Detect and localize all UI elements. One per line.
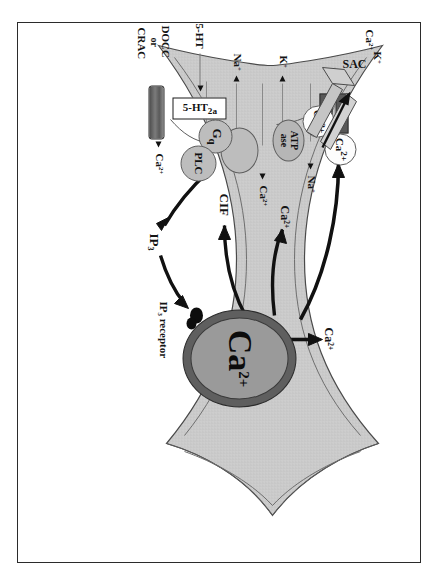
ip3-receptor-label: IP3 receptor: [156, 301, 168, 358]
rotation-wrapper: Ca2+ SAC ATP ase Ca2+: [18, 23, 422, 564]
docc-flux-arrowhead: [155, 141, 161, 147]
diagram-canvas: Ca2+ SAC ATP ase Ca2+: [18, 23, 422, 564]
ip3-label: IP3: [145, 233, 160, 250]
five-ht-label: 5-HT: [193, 23, 204, 48]
ca-pump-label: Ca2+: [257, 185, 268, 206]
k-left-label: K+: [277, 55, 288, 67]
five-ht-leader: [199, 53, 200, 85]
figure-root: Ca2+ SAC ATP ase Ca2+: [0, 0, 439, 586]
ca-cytosol-right-label: Ca2+: [322, 327, 334, 350]
docc-crac-channel[interactable]: [148, 85, 164, 139]
five-ht-arrowhead: [197, 85, 203, 91]
ca-efflux-label: Ca2+: [363, 29, 374, 50]
gq-label: Gq: [207, 128, 223, 144]
figure-frame: Ca2+ SAC ATP ase Ca2+: [17, 22, 421, 563]
ca-cytosol-mid-label: Ca2+: [278, 205, 290, 228]
atpase-label-line2: ase: [278, 133, 288, 146]
na-exch-arrowhead: [233, 75, 239, 81]
k-left-arrowhead: [279, 75, 285, 81]
ht2a-receptor[interactable]: 5-HT2a: [172, 97, 226, 119]
ca-pump-arrowhead: [259, 173, 265, 179]
docc-crac-label-line3: CRAC: [135, 27, 146, 59]
k-efflux-label: K+: [371, 51, 382, 63]
ca-docc-label: Ca2+: [153, 153, 164, 174]
na-exch-label: Na+: [231, 53, 242, 70]
plc-enzyme[interactable]: PLC: [180, 145, 216, 181]
er-calcium-store-lumen: Ca2+: [190, 317, 288, 399]
exocytosis-pore: [294, 63, 366, 155]
ht2a-receptor-label: 5-HT2a: [182, 100, 216, 115]
cif-label: CIF: [217, 193, 230, 215]
na-top-arrowhead: [307, 163, 313, 169]
docc-crac-label-line1: DOCC: [159, 25, 170, 57]
docc-crac-label-line2: or: [148, 37, 158, 46]
plc-label: PLC: [193, 152, 204, 174]
na-top-label: Na+: [305, 175, 316, 192]
er-store-label: Ca2+: [220, 329, 258, 387]
